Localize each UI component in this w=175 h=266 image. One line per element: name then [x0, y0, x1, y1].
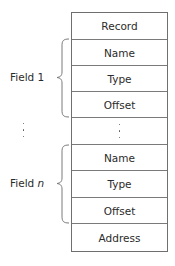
field-1-prefix: Field: [10, 71, 38, 83]
field-n-index: n: [38, 177, 45, 189]
field-1-label: Field 1: [10, 71, 44, 83]
cell-field-1-offset-label: Offset: [104, 99, 136, 111]
left-ellipsis-icon: [23, 123, 24, 137]
cell-field-1-name: Name: [72, 39, 167, 65]
field-1-index: 1: [38, 71, 45, 83]
cell-record-label: Record: [101, 20, 137, 32]
cell-field-1-type: Type: [72, 65, 167, 91]
cell-field-n-name-label: Name: [104, 152, 135, 164]
cell-ellipsis-icon: [119, 124, 120, 138]
field-n-label: Field n: [10, 177, 44, 189]
field-n-brace-icon: [54, 144, 70, 224]
field-1-brace-icon: [54, 38, 70, 118]
cell-address: Address: [72, 223, 167, 251]
cell-address-label: Address: [99, 232, 141, 244]
cell-field-n-offset: Offset: [72, 197, 167, 223]
field-n-prefix: Field: [10, 177, 38, 189]
cell-field-1-name-label: Name: [104, 47, 135, 59]
cell-ellipsis: [72, 117, 167, 144]
cell-field-n-offset-label: Offset: [104, 205, 136, 217]
cell-field-n-name: Name: [72, 144, 167, 170]
cell-field-1-type-label: Type: [107, 73, 131, 85]
cell-field-1-offset: Offset: [72, 91, 167, 117]
cell-record: Record: [72, 13, 167, 39]
cell-field-n-type-label: Type: [107, 178, 131, 190]
record-layout-box: Record Name Type Offset Name Type Offset…: [71, 12, 168, 252]
cell-field-n-type: Type: [72, 170, 167, 197]
